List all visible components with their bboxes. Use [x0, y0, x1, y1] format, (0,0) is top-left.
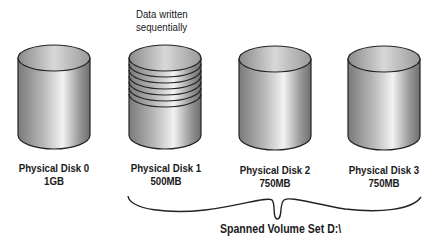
annotation-line-1: Data written [136, 8, 188, 21]
disk-name: Physical Disk 3 [340, 164, 428, 177]
annotation-text: Data written sequentially [136, 8, 188, 34]
disk-3-label: Physical Disk 3 750MB [340, 164, 428, 190]
disk-name: Physical Disk 2 [231, 164, 319, 177]
disk-name: Physical Disk 0 [10, 162, 98, 175]
disk-0-cylinder [18, 45, 90, 149]
spanning-brace [128, 196, 421, 219]
disk-size: 750MB [231, 177, 319, 190]
annotation-line-2: sequentially [136, 21, 188, 34]
disk-1-label: Physical Disk 1 500MB [122, 162, 210, 188]
disk-size: 1GB [10, 175, 98, 188]
diagram-canvas [0, 0, 448, 244]
disk-0-label: Physical Disk 0 1GB [10, 162, 98, 188]
disk-size: 750MB [340, 177, 428, 190]
disk-2-cylinder [239, 46, 311, 150]
disk-3-cylinder [348, 46, 420, 150]
disk-name: Physical Disk 1 [122, 162, 210, 175]
disk-1-cylinder [129, 45, 201, 149]
disk-size: 500MB [122, 175, 210, 188]
volume-set-label: Spanned Volume Set D:\ [220, 222, 341, 236]
disk-2-label: Physical Disk 2 750MB [231, 164, 319, 190]
